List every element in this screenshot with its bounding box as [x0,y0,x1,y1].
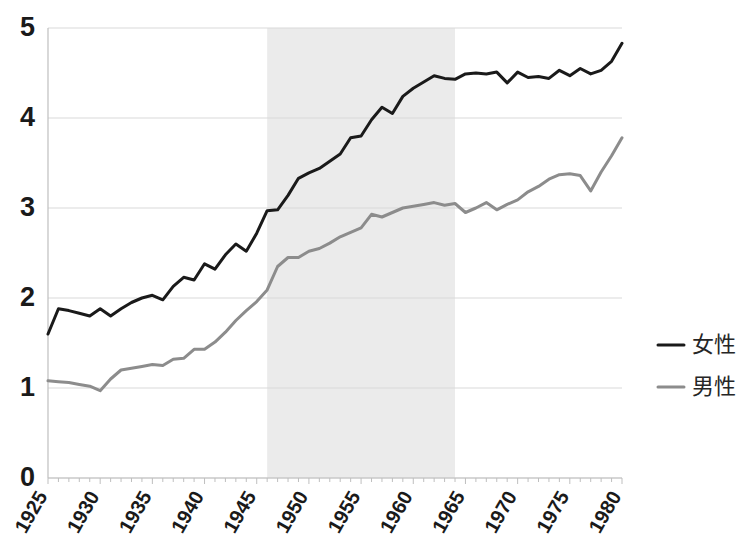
shaded-period-band [267,28,455,478]
y-axis-tick-label: 5 [20,12,35,42]
y-axis-tick-label: 4 [20,102,35,132]
x-axis-tick-label: 1980 [584,487,625,537]
x-axis-tick-label: 1935 [115,487,156,537]
y-axis-tick-label: 3 [20,192,35,222]
y-axis-tick-label: 2 [20,282,35,312]
legend-label-male: 男性 [692,374,736,399]
x-axis-tick-label: 1970 [480,487,521,537]
x-axis-tick-label: 1950 [271,487,312,537]
legend-label-female: 女性 [692,332,736,357]
chart-container: 0123451925193019351940194519501955196019… [0,0,746,556]
x-axis-tick-label: 1960 [375,487,416,537]
x-axis-tick-label: 1955 [323,487,364,537]
x-axis-tick-label: 1965 [428,487,469,537]
y-axis-tick-label: 1 [20,372,35,402]
x-axis-tick-label: 1945 [219,487,260,537]
line-chart: 0123451925193019351940194519501955196019… [0,0,746,556]
x-axis-tick-label: 1940 [167,487,208,537]
x-axis-tick-label: 1930 [62,487,103,537]
x-axis-tick-label: 1975 [532,487,573,537]
x-axis-tick-label: 1925 [10,487,51,537]
